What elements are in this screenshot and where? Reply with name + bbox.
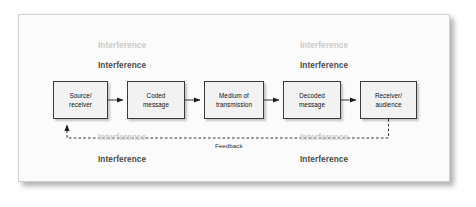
process-box-receiver-audience-label: Receiver/ audience xyxy=(373,91,404,109)
diagram-canvas: Interference Interference Interference I… xyxy=(19,15,449,181)
process-box-medium-of-transmission: Medium of transmission xyxy=(204,81,264,119)
interference-label-bottom-left-dark: Interference xyxy=(98,155,146,164)
process-box-medium-of-transmission-label: Medium of transmission xyxy=(214,91,254,109)
process-box-receiver-audience: Receiver/ audience xyxy=(360,81,417,119)
interference-label-top-left-dark: Interference xyxy=(98,61,146,70)
process-box-decoded-message-label: Decoded message xyxy=(297,91,327,109)
interference-label-top-right-dark: Interference xyxy=(300,61,348,70)
process-box-source: Source/ receiver xyxy=(53,81,108,119)
figure-root: Interference Interference Interference I… xyxy=(0,0,476,207)
feedback-label: Feedback xyxy=(215,142,243,149)
interference-label-bottom-right-light: Interference xyxy=(300,133,348,142)
interference-label-bottom-left-light: Interference xyxy=(98,133,146,142)
interference-label-top-left-light: Interference xyxy=(98,41,146,50)
interference-label-bottom-right-dark: Interference xyxy=(300,155,348,164)
figure-plate: Interference Interference Interference I… xyxy=(18,14,450,182)
process-box-coded-message-label: Coded message xyxy=(141,91,171,109)
process-box-decoded-message: Decoded message xyxy=(283,81,341,119)
process-box-source-label: Source/ receiver xyxy=(67,91,94,109)
process-box-coded-message: Coded message xyxy=(127,81,185,119)
interference-label-top-right-light: Interference xyxy=(300,41,348,50)
